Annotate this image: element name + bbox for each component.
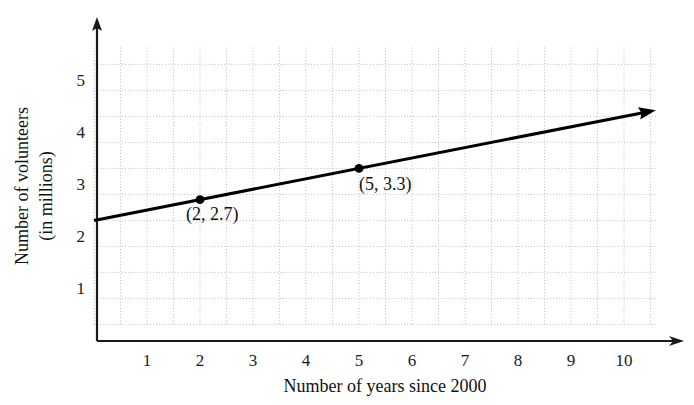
x-tick-label-10: 10 [616, 351, 633, 370]
y-tick-label-3: 3 [77, 175, 86, 194]
y-tick-label-5: 5 [77, 71, 86, 90]
y-tick-labels: 12345 [77, 71, 86, 298]
x-tick-label-5: 5 [355, 351, 364, 370]
x-tick-label-7: 7 [461, 351, 470, 370]
x-tick-label-1: 1 [143, 351, 152, 370]
x-axis-title: Number of years since 2000 [284, 376, 487, 396]
y-axis-title-line1: Number of volunteers [12, 107, 32, 265]
point-label-1: (2, 2.7) [186, 204, 239, 225]
data-point-marker-2 [355, 164, 364, 173]
y-tick-label-4: 4 [77, 123, 86, 142]
x-tick-label-8: 8 [514, 351, 523, 370]
x-tick-labels: 12345678910 [143, 351, 633, 370]
x-tick-label-3: 3 [249, 351, 258, 370]
chart-canvas: 12345678910 12345 (2, 2.7) (5, 3.3) Numb… [0, 0, 694, 405]
x-tick-label-4: 4 [302, 351, 311, 370]
x-tick-label-2: 2 [196, 351, 205, 370]
y-tick-label-2: 2 [77, 227, 86, 246]
y-tick-label-1: 1 [77, 279, 86, 298]
x-tick-label-6: 6 [408, 351, 417, 370]
point-label-2: (5, 3.3) [359, 174, 412, 195]
y-axis-title-line2: (in millions) [36, 151, 57, 241]
volunteers-line-chart: 12345678910 12345 (2, 2.7) (5, 3.3) Numb… [0, 0, 694, 405]
trend-line-series [94, 107, 656, 220]
x-tick-label-9: 9 [567, 351, 576, 370]
trend-line [94, 113, 643, 221]
data-point-marker-1 [196, 195, 205, 204]
